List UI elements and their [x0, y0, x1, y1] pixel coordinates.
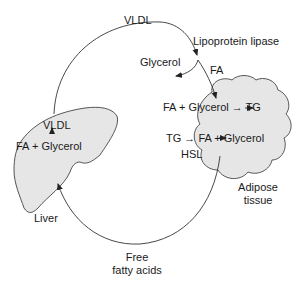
fa-label: FA	[210, 64, 223, 76]
ffa-label-line2: fatty acids	[102, 264, 172, 276]
hsl-label: HSL	[181, 148, 202, 160]
ffa-label-line1: Free	[112, 251, 162, 263]
liver-reactants-label: FA + Glycerol	[16, 140, 82, 152]
liver-name-label: Liver	[34, 212, 58, 224]
adipose-name-line2: tissue	[236, 194, 280, 206]
vldl-arc-label: VLDL	[124, 14, 152, 26]
adipose-lipolysis-label: TG → FA + Glycerol	[166, 132, 264, 144]
liver-product-label: VLDL	[43, 119, 71, 131]
adipose-shape	[194, 76, 291, 179]
ffa-arc	[58, 156, 220, 244]
adipose-name-line1: Adipose	[236, 181, 280, 193]
adipose-synthesis-label: FA + Glycerol → TG	[163, 101, 261, 113]
glycerol-label: Glycerol	[140, 56, 180, 68]
enzyme-label: Lipoprotein lipase	[193, 35, 279, 47]
